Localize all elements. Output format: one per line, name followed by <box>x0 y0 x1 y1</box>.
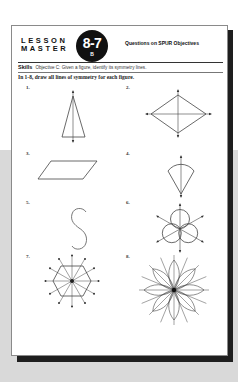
figure-5-letter-s <box>67 206 91 252</box>
instructions: In 1-8, draw all lines of symmetry for e… <box>18 74 134 80</box>
header-subtitle: Questions on SPUR Objectives <box>125 40 199 46</box>
master-label: MASTER <box>21 45 68 53</box>
worksheet-page: LESSON MASTER 8-7 B Questions on SPUR Ob… <box>11 25 228 356</box>
lesson-number: 8-7 <box>76 35 108 51</box>
figure-6-three-circles <box>152 202 208 254</box>
figure-3-number: 3. <box>26 151 30 156</box>
figure-8-number: 8. <box>126 254 130 259</box>
figure-4-number: 4. <box>126 151 130 156</box>
lesson-badge: 8-7 B <box>76 30 108 62</box>
figure-3-parallelogram <box>37 159 99 181</box>
figure-5-number: 5. <box>26 200 30 205</box>
figure-2-rhombus <box>145 89 211 137</box>
lesson-version: B <box>76 51 108 57</box>
figure-2-number: 2. <box>126 85 130 90</box>
lesson-master-title: LESSON MASTER <box>21 37 68 52</box>
figure-1-triangle <box>54 90 94 140</box>
divider-top <box>18 62 223 63</box>
figure-4-sector <box>165 154 197 198</box>
divider-mid <box>18 72 223 73</box>
skills-objective: Objective C: Given a figure, identify it… <box>35 65 146 70</box>
figure-7-hexagon <box>42 254 102 308</box>
figure-7-number: 7. <box>26 254 30 259</box>
skills-label: Skills <box>18 64 32 70</box>
figure-6-number: 6. <box>126 200 130 205</box>
figure-1-number: 1. <box>26 85 30 90</box>
figure-8-flower <box>136 254 212 330</box>
skills-line: SkillsObjective C: Given a figure, ident… <box>18 64 223 70</box>
